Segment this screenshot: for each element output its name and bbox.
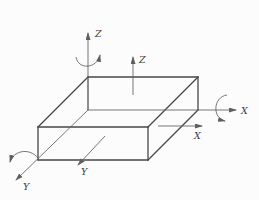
top-left-edge <box>38 77 88 127</box>
local-y-axis-label: Y <box>81 166 89 177</box>
local-z-axis-label: Z <box>138 54 146 65</box>
main-y-axis <box>16 110 88 180</box>
main-z-axis-label: Z <box>94 28 102 39</box>
local-x-axis-label: X <box>193 130 202 141</box>
top-right-edge <box>148 77 198 127</box>
bottom-right-edge <box>148 110 198 160</box>
main-x-axis-rotation-arc <box>216 95 227 121</box>
plate-axes-diagram: ZXYZXY <box>0 0 259 200</box>
main-y-axis-label: Y <box>23 181 31 192</box>
main-x-axis-label: X <box>240 105 249 116</box>
plate-rotation-figure: ZXYZXY <box>0 0 259 200</box>
main-y-axis-rotation-arc <box>10 151 38 162</box>
